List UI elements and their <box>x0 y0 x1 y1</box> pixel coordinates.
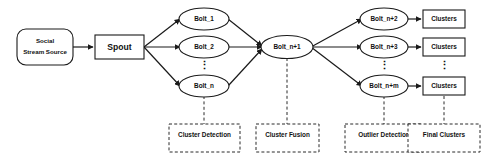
final-clusters-label: Final Clusters <box>423 131 466 138</box>
topology-canvas: Social Stream Source Spout Bolt_1 Bolt_2… <box>0 0 488 161</box>
node-spout[interactable]: Spout <box>95 35 144 59</box>
node-bolt-n-plus-3[interactable]: Bolt_n+3 <box>360 36 408 58</box>
clusters-column-ellipsis: ⋮ <box>439 59 450 71</box>
social-stream-source-label-line1: Social <box>36 37 55 44</box>
bolt-n-plus-3-label: Bolt_n+3 <box>370 43 398 50</box>
node-bolt-n-plus-m[interactable]: Bolt_n+m <box>360 75 408 97</box>
node-bolt-n-plus-2[interactable]: Bolt_n+2 <box>360 8 408 30</box>
bolt-2-label: Bolt_2 <box>194 43 214 50</box>
outlier-bolt-column-ellipsis: ⋮ <box>379 59 390 71</box>
phase-cluster-fusion: Cluster Fusion <box>256 124 319 152</box>
bolt-1-label: Bolt_1 <box>194 15 214 22</box>
node-clusters-3[interactable]: Clusters <box>423 77 465 95</box>
clusters-1-label: Clusters <box>431 15 457 22</box>
edge-spout-to-bolt-1 <box>144 19 180 47</box>
social-stream-source-label-line2: Stream Source <box>23 48 67 55</box>
clusters-2-label: Clusters <box>431 43 457 50</box>
node-clusters-1[interactable]: Clusters <box>423 10 465 28</box>
cluster-fusion-box <box>256 124 319 152</box>
outlier-detection-label: Outlier Detection <box>358 131 410 138</box>
topology-diagram: Social Stream Source Spout Bolt_1 Bolt_2… <box>0 0 488 161</box>
edge-fusion-to-bolt-n2 <box>311 19 362 47</box>
node-clusters-2[interactable]: Clusters <box>423 38 465 56</box>
node-bolt-2[interactable]: Bolt_2 <box>179 36 229 58</box>
edge-bolt-1-to-fusion <box>228 19 262 46</box>
bolt-n-plus-1-label: Bolt_n+1 <box>273 43 301 50</box>
final-clusters-box <box>408 124 480 152</box>
node-bolt-1[interactable]: Bolt_1 <box>179 8 229 30</box>
phase-final-clusters: Final Clusters <box>408 124 480 152</box>
bolt-n-label: Bolt_n <box>194 82 214 89</box>
phase-cluster-detection: Cluster Detection <box>169 124 240 152</box>
cluster-detection-label: Cluster Detection <box>178 131 231 138</box>
edge-fusion-to-bolt-nm <box>311 47 362 86</box>
clusters-3-label: Clusters <box>431 82 457 89</box>
bolt-n-plus-2-label: Bolt_n+2 <box>370 15 398 22</box>
cluster-detection-box <box>169 124 240 152</box>
edge-spout-to-bolt-n <box>144 47 180 86</box>
node-bolt-n[interactable]: Bolt_n <box>179 75 229 97</box>
spout-label: Spout <box>107 42 131 52</box>
cluster-fusion-label: Cluster Fusion <box>265 131 310 138</box>
node-bolt-n-plus-1[interactable]: Bolt_n+1 <box>261 36 313 59</box>
node-social-stream-source[interactable]: Social Stream Source <box>17 29 73 65</box>
bolt-column-ellipsis: ⋮ <box>199 59 210 71</box>
edge-bolt-n-to-fusion <box>228 49 262 86</box>
bolt-n-plus-m-label: Bolt_n+m <box>369 82 399 89</box>
